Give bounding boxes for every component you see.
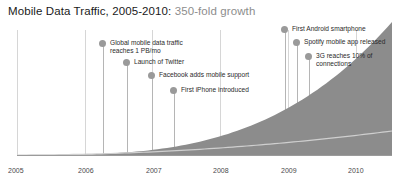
chart-figure: Mobile Data Traffic, 2005-2010: 350-fold… [0, 0, 412, 185]
annotation-5[interactable]: Spotify mobile app released [293, 38, 385, 46]
x-tick-label-2010: 2010 [348, 166, 364, 175]
annotation-marker-icon [293, 39, 300, 46]
x-tick-label-2005: 2005 [8, 166, 24, 175]
annotation-label: Facebook adds mobile support [159, 71, 249, 79]
annotation-label: Spotify mobile app released [304, 38, 385, 46]
annotation-0[interactable]: Global mobile data traffic reaches 1 PB/… [99, 39, 183, 54]
annotation-6[interactable]: 3G reaches 10% of connections [305, 52, 372, 67]
annotation-label: 3G reaches 10% of connections [316, 52, 372, 67]
annotation-label: Launch of Twitter [134, 58, 184, 66]
annotation-3[interactable]: First iPhone introduced [170, 86, 249, 94]
annotation-1[interactable]: Launch of Twitter [123, 58, 184, 66]
annotation-label: First Android smartphone [292, 25, 366, 33]
x-tick-label-2008: 2008 [213, 166, 229, 175]
annotation-marker-icon [99, 40, 106, 47]
annotation-marker-icon [170, 87, 177, 94]
annotation-label: Global mobile data traffic reaches 1 PB/… [110, 39, 183, 54]
annotation-2[interactable]: Facebook adds mobile support [148, 71, 249, 79]
x-tick-label-2006: 2006 [78, 166, 94, 175]
annotation-marker-icon [123, 59, 130, 66]
x-tick-label-2007: 2007 [146, 166, 162, 175]
annotation-marker-icon [148, 72, 155, 79]
annotation-marker-icon [305, 53, 312, 60]
x-tick-label-2009: 2009 [281, 166, 297, 175]
annotation-4[interactable]: First Android smartphone [281, 25, 366, 33]
annotation-label: First iPhone introduced [181, 86, 249, 94]
annotation-marker-icon [281, 26, 288, 33]
